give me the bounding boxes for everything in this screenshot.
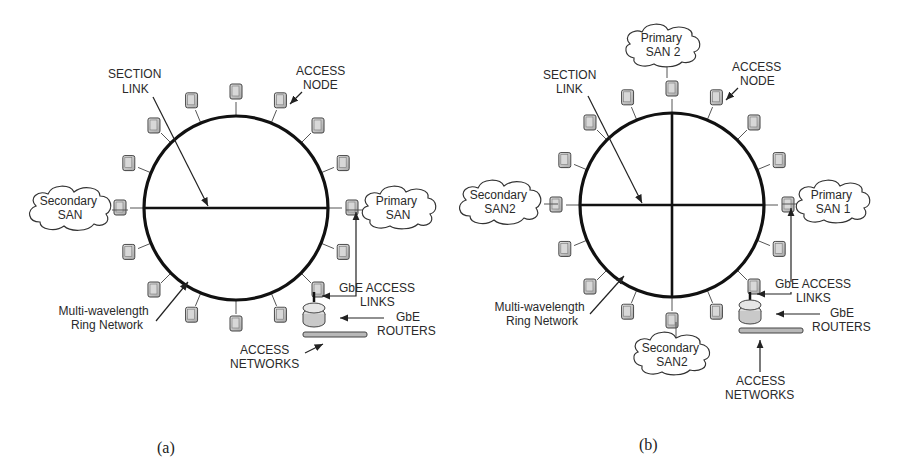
svg-text:Primary SAN 1: Primary SAN 1 (811, 188, 856, 216)
secondary-san-2-left-cloud: Secondary SAN2 (460, 180, 558, 224)
access-node-icon (710, 304, 722, 319)
gbe-access-links-label: GbE ACCESS LINKS (775, 277, 854, 305)
gbe-routers-label: GbE ROUTERS (812, 306, 871, 334)
access-node-icon (337, 156, 349, 171)
access-node-icon (123, 156, 135, 171)
gbe-routers-label: GbE ROUTERS (377, 310, 436, 338)
access-node-icon (748, 279, 760, 294)
access-networks-label: ACCESS NETWORKS (725, 374, 794, 402)
access-node-icon (622, 304, 634, 319)
secondary-san-cloud: Secondary SAN (30, 186, 128, 230)
primary-san-2-cloud: Primary SAN 2 (626, 24, 700, 78)
access-node-icon (337, 244, 349, 259)
section-link-label: SECTION LINK (108, 67, 165, 96)
access-node-arrow (290, 92, 302, 104)
section-link-label: SECTION LINK (543, 68, 600, 96)
ring-network-label: Multi-wavelength Ring Network (495, 300, 588, 328)
access-node-icon (274, 93, 286, 108)
primary-san-1-cloud: Primary SAN 1 (782, 180, 870, 223)
secondary-san-2-bottom-cloud: Secondary SAN2 (634, 322, 710, 375)
access-node-icon (114, 200, 126, 215)
access-node-icon (584, 279, 596, 294)
access-node-icon (274, 307, 286, 322)
panel-a: SECTION LINK ACCESS NODE Secondary SAN P… (30, 64, 436, 457)
access-node-icon (748, 115, 760, 130)
primary-san-cloud: Primary SAN (346, 186, 436, 229)
access-node-icon (312, 118, 324, 133)
access-networks-label: ACCESS NETWORKS (230, 343, 299, 371)
panel-b: SECTION LINK ACCESS NODE Primary SAN 2 S… (460, 24, 871, 454)
access-node-icon (666, 81, 678, 96)
access-node-icon (148, 118, 160, 133)
access-node-icon (622, 90, 634, 105)
svg-text:Primary SAN 2: Primary SAN 2 (641, 31, 686, 59)
access-node-icon (123, 244, 135, 259)
access-node-label: ACCESS NODE (296, 64, 349, 92)
section-link-arrow (153, 97, 208, 206)
access-node-icon (773, 241, 785, 256)
access-node-icon (773, 153, 785, 168)
access-node-icon (186, 307, 198, 322)
network-diagram: SECTION LINK ACCESS NODE Secondary SAN P… (0, 0, 905, 472)
ring-network-label: Multi-wavelength Ring Network (59, 304, 152, 332)
caption-b: (b) (639, 436, 658, 454)
access-network-bar (303, 332, 367, 337)
access-node-icon (186, 93, 198, 108)
access-node-icon (559, 153, 571, 168)
gbe-router (739, 292, 761, 324)
caption-a: (a) (157, 439, 175, 457)
gbe-access-links-label: GbE ACCESS LINKS (339, 281, 418, 309)
access-node-icon (559, 241, 571, 256)
access-node-icon (584, 115, 596, 130)
access-node-icon (230, 316, 242, 331)
access-node-icon (148, 282, 160, 297)
access-node-icon (230, 84, 242, 99)
access-node-icon (710, 90, 722, 105)
access-node-label: ACCESS NODE (732, 60, 785, 88)
access-network-bar (739, 328, 803, 333)
